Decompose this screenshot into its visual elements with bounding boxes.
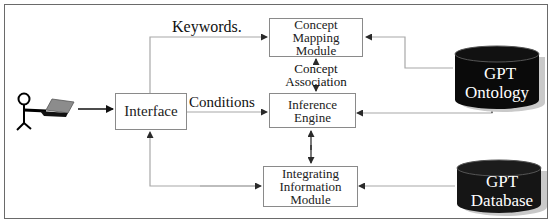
integrating-information-module-box: Integrating Information Module [263, 166, 358, 207]
concept-association-line-2: Association [270, 75, 362, 88]
gpt-database-line-1: GPT [454, 172, 550, 191]
inference-engine-box: Inference Engine [269, 93, 356, 128]
interface-box: Interface [115, 93, 187, 130]
concept-mapping-module-box: Concept Mapping Module [269, 18, 363, 57]
interface-label: Interface [124, 105, 177, 118]
concept-association-label: Concept Association [270, 62, 362, 88]
gpt-ontology-line-2: Ontology [452, 83, 548, 102]
keywords-label: Keywords. [172, 18, 242, 36]
conditions-label: Conditions [189, 94, 255, 111]
gpt-database-icon: GPT Database [454, 158, 550, 220]
inference-engine-line-2: Engine [288, 111, 337, 124]
inference-engine-line-1: Inference [288, 98, 337, 111]
gpt-ontology-database-icon: GPT Ontology [452, 44, 548, 116]
integrating-line-3: Module [279, 193, 341, 206]
gpt-ontology-line-1: GPT [452, 64, 548, 83]
laptop-icon [46, 99, 74, 113]
gpt-database-line-2: Database [454, 191, 550, 210]
concept-mapping-line-3: Module [293, 44, 340, 57]
